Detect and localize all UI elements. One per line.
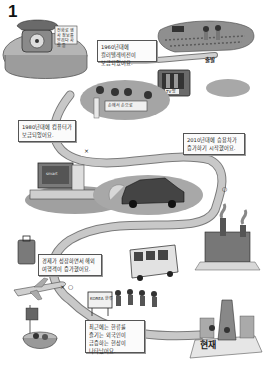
kpop-sign-text: KOREA 한류 (90, 296, 113, 301)
caption-hallyu: 최근에는 한류를 즐기는 외국인이 급증하는 현상이 나타났어요. (85, 320, 145, 353)
road-marker-o: ○ (222, 186, 227, 191)
people-with-banner (80, 80, 170, 120)
dancing-group (88, 289, 157, 316)
tv-label: TV 방 (166, 89, 176, 94)
road-marker-x: × (84, 148, 89, 153)
road-marker-o: ○ (68, 284, 73, 289)
timeline-illustration: 1 전화로 행사 정보를 알리다 사람 들 출발 TV 방 손에서 손으로 sm… (0, 0, 267, 374)
now-label: 현재 (200, 338, 216, 351)
grass-patch (206, 79, 250, 97)
farm-field-with-cow (158, 21, 254, 52)
caption-1980s: 1980년대에 컴퓨터가 보급되었어요. (18, 120, 76, 142)
caption-economy: 경제가 성장하면서 해외 여행객이 증가했어요. (38, 254, 102, 276)
suitcase (18, 236, 35, 264)
computer-screen-text: smart (46, 171, 58, 176)
food-bowl-with-flag (23, 305, 57, 349)
factory-chimneys (195, 204, 260, 270)
start-label: 출발 (205, 56, 215, 64)
car-with-exhaust (93, 175, 203, 215)
caption-2010s: 2010년대에 승용차가 증가하기 시작했어요. (183, 133, 245, 155)
caption-1960s: 1960년대에 컬러텔레비전이 보급되었어요. (97, 40, 157, 62)
road-marker-x: × (60, 284, 65, 289)
bus (130, 245, 178, 281)
phone-note-text: 전화로 행사 정보를 알리다 사람 들 (57, 28, 75, 48)
banner-text: 손에서 손으로 (108, 103, 133, 108)
figure-number: 1 (8, 2, 17, 22)
